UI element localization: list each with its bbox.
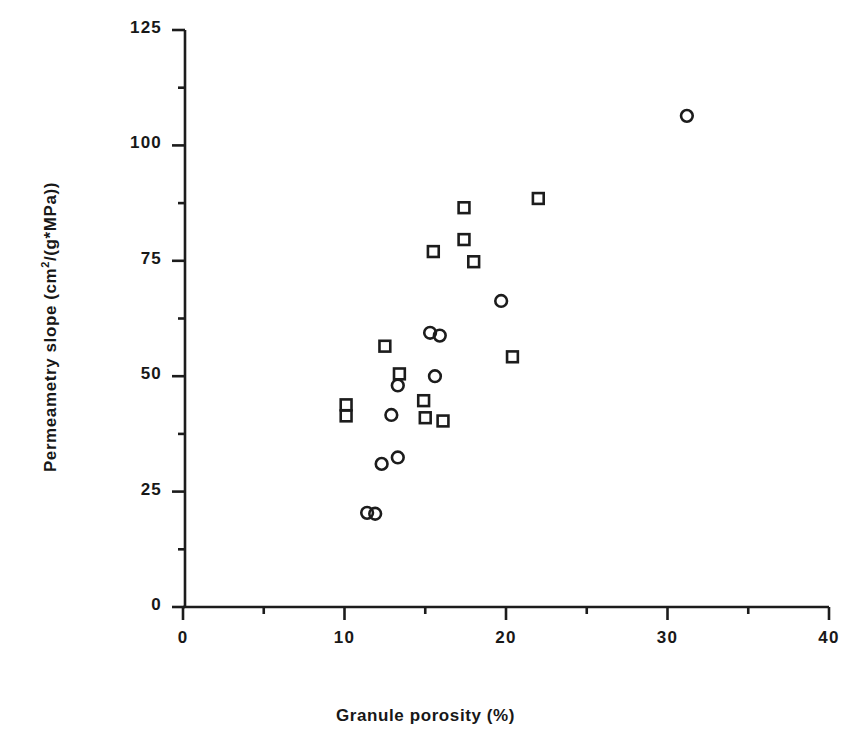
data-point-square: [438, 416, 449, 427]
y-axis-title-container: Permeametry slope (cm2/(g*MPa)): [39, 27, 69, 627]
data-point-circle: [385, 409, 397, 421]
axes: [183, 30, 829, 607]
data-point-square: [418, 395, 429, 406]
y-tick-label: 100: [92, 133, 162, 153]
data-point-circle: [392, 380, 404, 392]
data-markers: [341, 110, 693, 520]
data-point-square: [341, 410, 352, 421]
data-point-circle: [392, 452, 404, 464]
y-tick-label: 50: [92, 364, 162, 384]
y-tick-label: 0: [92, 595, 162, 615]
data-point-circle: [376, 458, 388, 470]
scatter-chart-figure: 0255075100125 010203040 Permeametry slop…: [0, 0, 851, 748]
x-tick-label: 10: [315, 628, 375, 648]
y-axis-title: Permeametry slope (cm2/(g*MPa)): [39, 182, 61, 472]
x-tick-label: 30: [638, 628, 698, 648]
x-tick-label: 40: [799, 628, 851, 648]
y-tick-label: 125: [92, 18, 162, 38]
x-tick-label: 20: [476, 628, 536, 648]
data-point-square: [341, 399, 352, 410]
data-point-square: [420, 412, 431, 423]
y-tick-label: 75: [92, 249, 162, 269]
data-point-circle: [369, 508, 381, 520]
data-point-square: [507, 351, 518, 362]
data-point-square: [468, 256, 479, 267]
data-point-circle: [495, 295, 507, 307]
data-point-square: [459, 234, 470, 245]
data-point-circle: [681, 110, 693, 122]
data-point-circle: [429, 370, 441, 382]
y-axis-ticks: [172, 30, 185, 607]
data-point-square: [459, 202, 470, 213]
x-axis-title: Granule porosity (%): [0, 706, 851, 726]
data-point-square: [533, 193, 544, 204]
data-point-square: [394, 368, 405, 379]
y-tick-label: 25: [92, 480, 162, 500]
x-tick-label: 0: [153, 628, 213, 648]
data-point-square: [379, 341, 390, 352]
data-point-square: [428, 246, 439, 257]
x-axis-ticks: [183, 607, 829, 620]
